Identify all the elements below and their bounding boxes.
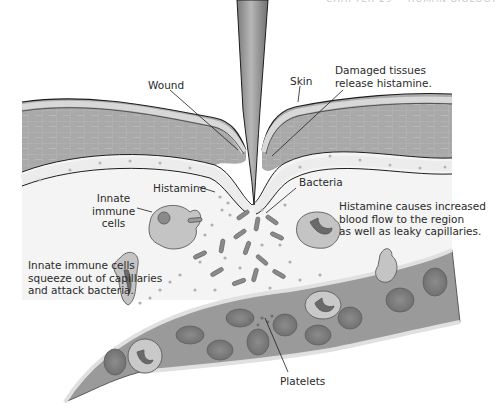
label-platelets: Platelets: [280, 375, 325, 388]
label-immune-cells-action: Innate immune cells squeeze out of capil…: [28, 259, 162, 297]
label-damaged-tissues: Damaged tissues release histamine.: [335, 64, 432, 89]
label-wound: Wound: [148, 79, 184, 92]
label-skin: Skin: [290, 75, 312, 88]
label-histamine-effect: Histamine causes increased blood flow to…: [339, 200, 486, 238]
label-innate-immune-cells: Innate immune cells: [92, 192, 135, 230]
needle: [237, 0, 268, 205]
label-bacteria: Bacteria: [299, 176, 343, 189]
label-histamine: Histamine: [153, 182, 206, 195]
